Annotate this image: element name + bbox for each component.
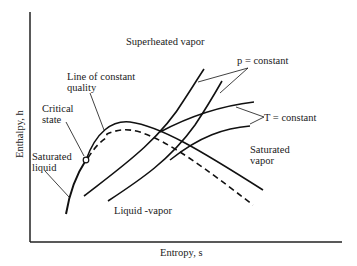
leader-t-constant-2: [250, 117, 264, 124]
leader-saturated-liquid: [45, 171, 69, 197]
label-saturated-liquid: Saturated liquid: [32, 151, 72, 173]
critical-point: [83, 157, 89, 163]
label-superheated-vapor: Superheated vapor: [126, 36, 204, 47]
leader-constant-quality: [90, 93, 104, 130]
label-saturated-vapor: Saturated vapor: [250, 144, 290, 166]
constant-temperature-line-2: [170, 126, 250, 160]
leader-t-constant-1: [236, 107, 264, 117]
y-axis-label: Enthalpy, h: [14, 110, 25, 158]
label-p-constant: p = constant: [237, 55, 288, 66]
label-critical-state: Critical state: [42, 103, 74, 125]
label-liquid-vapor: Liquid -vapor: [114, 205, 172, 216]
label-constant-quality: Line of constant quality: [67, 71, 135, 93]
constant-pressure-line-2: [108, 81, 222, 201]
label-t-constant: T = constant: [264, 112, 316, 123]
x-axis-label: Entropy, s: [160, 247, 202, 258]
